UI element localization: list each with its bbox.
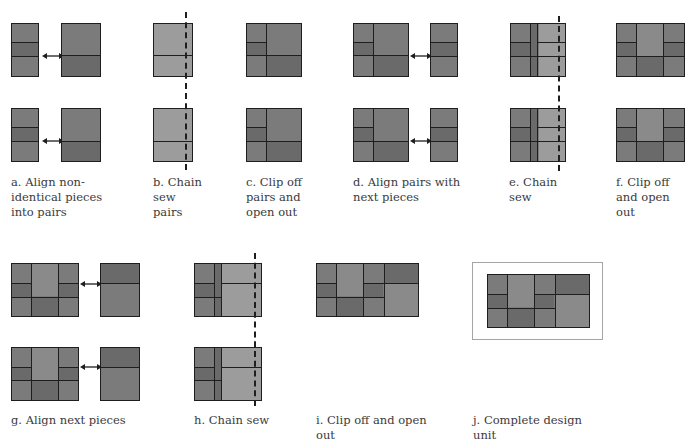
seam	[11, 297, 79, 298]
seam	[537, 23, 538, 77]
seam	[194, 283, 214, 284]
double-arrow-icon	[80, 363, 102, 371]
band	[511, 128, 530, 141]
seam	[11, 367, 31, 368]
lower	[267, 56, 301, 76]
seam	[537, 108, 538, 162]
sewn-pair	[153, 23, 193, 77]
seam	[316, 297, 385, 298]
seam	[11, 283, 31, 284]
seam	[214, 347, 215, 401]
seam	[373, 108, 374, 162]
center-bottom	[337, 297, 363, 316]
seam	[616, 56, 685, 57]
seam	[100, 367, 140, 368]
band-right	[59, 284, 78, 297]
seam	[487, 294, 507, 295]
seam	[363, 283, 419, 284]
seam	[11, 42, 39, 43]
seam	[534, 294, 590, 295]
band-left	[317, 284, 336, 297]
seam	[31, 347, 32, 401]
seam	[616, 141, 685, 142]
square-top	[101, 264, 139, 283]
step-label-f: f. Clip off and open out	[616, 175, 690, 220]
stitch-line-icon	[254, 253, 256, 406]
seam	[430, 141, 458, 142]
seam	[214, 263, 215, 317]
square-bottom	[556, 295, 589, 327]
step-label-c: c. Clip off pairs and open out	[246, 175, 327, 220]
band-left	[617, 43, 636, 56]
seam	[538, 42, 566, 43]
step-label-j: j. Complete design unit	[473, 413, 604, 443]
seam	[538, 127, 566, 128]
seam	[61, 141, 101, 142]
seam	[663, 127, 685, 128]
stitch-line-icon	[558, 16, 560, 171]
seam	[153, 141, 193, 142]
seam	[266, 108, 267, 162]
band	[354, 128, 373, 141]
seam	[534, 274, 535, 328]
step-label-i: i. Clip off and open out	[316, 413, 447, 443]
square-lower	[62, 141, 100, 161]
seam	[510, 127, 530, 128]
sewn-pair	[153, 108, 193, 162]
seam	[510, 42, 530, 43]
center-top	[32, 264, 58, 296]
lower	[374, 141, 408, 161]
seam	[194, 380, 221, 381]
seam	[58, 347, 59, 401]
seam	[353, 55, 409, 56]
seam	[58, 283, 79, 284]
seam	[100, 283, 140, 284]
band-right	[664, 43, 684, 56]
seam	[153, 55, 193, 56]
seam	[266, 23, 267, 77]
seam	[353, 127, 373, 128]
seam	[58, 263, 59, 317]
center-bottom	[32, 297, 58, 316]
seam	[336, 263, 337, 317]
seam	[487, 308, 556, 309]
seam	[616, 127, 636, 128]
seam	[316, 283, 336, 284]
stitch-line-icon	[185, 12, 187, 170]
band-left	[12, 284, 31, 297]
strip-band	[12, 43, 38, 56]
center-top	[32, 348, 58, 380]
seam	[430, 56, 458, 57]
band-left	[488, 295, 507, 308]
double-arrow-icon	[80, 280, 102, 288]
seam	[636, 23, 637, 77]
seam	[11, 127, 39, 128]
step-label-g: g. Align next pieces	[11, 413, 162, 428]
seam	[363, 263, 364, 317]
seam	[353, 141, 409, 142]
seam	[194, 367, 214, 368]
band-right	[535, 295, 554, 308]
square-top	[556, 275, 589, 294]
seam	[555, 274, 556, 328]
step-label-a: a. Align non- identical pieces into pair…	[11, 175, 132, 220]
center-top	[337, 264, 363, 296]
seam	[616, 42, 636, 43]
seam	[507, 274, 508, 328]
seam	[430, 42, 458, 43]
band-right	[664, 128, 684, 141]
seam	[194, 297, 221, 298]
seam	[11, 380, 79, 381]
seam	[663, 108, 664, 162]
seam	[31, 263, 32, 317]
seam	[663, 42, 685, 43]
band-right	[364, 284, 383, 297]
strip-band	[431, 128, 457, 141]
square-top	[385, 264, 418, 283]
seam	[636, 108, 637, 162]
strip-band	[431, 43, 457, 56]
step-label-b: b. Chain sew pairs	[153, 175, 224, 220]
band-left	[617, 128, 636, 141]
seam	[11, 141, 39, 142]
seam	[246, 127, 266, 128]
